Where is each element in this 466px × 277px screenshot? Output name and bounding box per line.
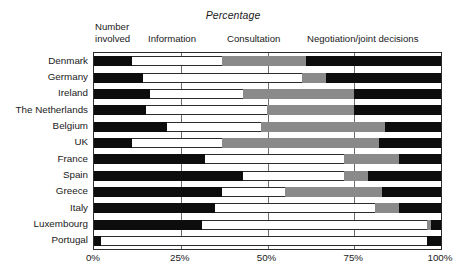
category-label-greece: Greece bbox=[0, 186, 88, 196]
bar-segment-4 bbox=[368, 171, 441, 181]
bar-segment-3 bbox=[285, 187, 382, 197]
bar-row bbox=[94, 105, 441, 115]
bar-row bbox=[94, 122, 441, 132]
bar-segment-4 bbox=[431, 220, 441, 230]
segment-header-1: Numberinvolved bbox=[95, 21, 130, 44]
bar-segment-3 bbox=[344, 154, 400, 164]
bar-segment-3 bbox=[267, 105, 354, 115]
bar-segment-1 bbox=[94, 154, 205, 164]
category-label-portugal: Portugal bbox=[0, 235, 88, 245]
chart-title: Percentage bbox=[206, 9, 261, 21]
bar-segment-4 bbox=[427, 236, 441, 246]
bar-row bbox=[94, 236, 441, 246]
category-label-denmark: Denmark bbox=[0, 56, 88, 66]
x-tick-50pct: 50% bbox=[257, 252, 277, 263]
category-label-belgium: Belgium bbox=[0, 121, 88, 131]
bar-row bbox=[94, 56, 441, 66]
x-tick-0pct: 0% bbox=[86, 252, 100, 263]
x-tick-75pct: 75% bbox=[343, 252, 363, 263]
category-label-luxembourg: Luxembourg bbox=[0, 219, 88, 229]
bar-row bbox=[94, 154, 441, 164]
segment-header-line1: Consultation bbox=[227, 33, 280, 45]
bar-segment-2 bbox=[215, 203, 375, 213]
category-label-spain: Spain bbox=[0, 170, 88, 180]
category-label-ireland: Ireland bbox=[0, 88, 88, 98]
bar-rows bbox=[94, 53, 441, 249]
bar-segment-1 bbox=[94, 138, 132, 148]
category-axis-labels: DenmarkGermanyIrelandThe NetherlandsBelg… bbox=[0, 52, 88, 248]
bar-segment-4 bbox=[399, 154, 441, 164]
segment-header-line1: Number bbox=[95, 21, 130, 33]
x-axis-tick-labels: 0%25%50%75%100% bbox=[93, 252, 440, 268]
bar-segment-4 bbox=[354, 89, 441, 99]
bar-segment-2 bbox=[243, 171, 344, 181]
bar-segment-1 bbox=[94, 89, 150, 99]
bar-segment-1 bbox=[94, 56, 132, 66]
bar-segment-2 bbox=[150, 89, 244, 99]
bar-row bbox=[94, 220, 441, 230]
bar-segment-3 bbox=[222, 138, 378, 148]
bar-segment-2 bbox=[101, 236, 427, 246]
segment-header-2: Information bbox=[148, 33, 196, 45]
bar-segment-2 bbox=[202, 220, 428, 230]
bar-segment-2 bbox=[132, 56, 222, 66]
bar-row bbox=[94, 203, 441, 213]
segment-header-4: Negotiation/joint decisions bbox=[307, 33, 418, 45]
bar-segment-3 bbox=[302, 73, 326, 83]
bar-segment-4 bbox=[354, 105, 441, 115]
bar-segment-2 bbox=[222, 187, 284, 197]
bar-segment-4 bbox=[326, 73, 441, 83]
category-label-germany: Germany bbox=[0, 72, 88, 82]
bar-row bbox=[94, 187, 441, 197]
bar-segment-2 bbox=[146, 105, 267, 115]
bar-row bbox=[94, 171, 441, 181]
bar-row bbox=[94, 138, 441, 148]
bar-segment-1 bbox=[94, 187, 222, 197]
x-tick-100pct: 100% bbox=[427, 252, 452, 263]
bar-segment-3 bbox=[375, 203, 399, 213]
bar-row bbox=[94, 73, 441, 83]
bar-row bbox=[94, 89, 441, 99]
bar-segment-3 bbox=[243, 89, 354, 99]
category-label-uk: UK bbox=[0, 137, 88, 147]
bar-segment-2 bbox=[132, 138, 222, 148]
bar-segment-4 bbox=[382, 187, 441, 197]
bar-segment-4 bbox=[399, 203, 441, 213]
bar-segment-3 bbox=[344, 171, 368, 181]
bar-segment-1 bbox=[94, 220, 202, 230]
category-label-the-netherlands: The Netherlands bbox=[0, 105, 88, 115]
segment-header-3: Consultation bbox=[227, 33, 280, 45]
bar-segment-2 bbox=[205, 154, 344, 164]
bar-segment-1 bbox=[94, 122, 167, 132]
chart-figure: Percentage NumberinvolvedInformationCons… bbox=[0, 0, 466, 277]
bar-segment-3 bbox=[222, 56, 305, 66]
bar-segment-1 bbox=[94, 203, 215, 213]
category-label-italy: Italy bbox=[0, 203, 88, 213]
segment-header-line2: involved bbox=[95, 33, 130, 45]
bar-segment-2 bbox=[167, 122, 261, 132]
bar-segment-1 bbox=[94, 236, 101, 246]
bar-segment-4 bbox=[379, 138, 441, 148]
bar-segment-1 bbox=[94, 73, 143, 83]
plot-area bbox=[93, 52, 442, 250]
segment-header-line1: Information bbox=[148, 33, 196, 45]
category-label-france: France bbox=[0, 154, 88, 164]
bar-segment-2 bbox=[143, 73, 303, 83]
bar-segment-1 bbox=[94, 105, 146, 115]
bar-segment-4 bbox=[385, 122, 441, 132]
bar-segment-4 bbox=[306, 56, 441, 66]
bar-segment-1 bbox=[94, 171, 243, 181]
bar-segment-3 bbox=[261, 122, 386, 132]
segment-header-line1: Negotiation/joint decisions bbox=[307, 33, 418, 45]
x-tick-25pct: 25% bbox=[170, 252, 190, 263]
